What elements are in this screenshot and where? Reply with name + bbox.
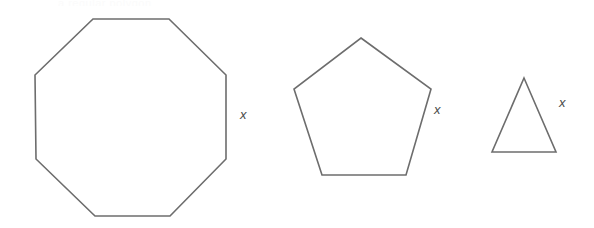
polygons-canvas xyxy=(0,0,594,228)
pentagon-shape xyxy=(294,38,431,175)
triangle-shape xyxy=(492,78,556,152)
triangle-side-label-x: x xyxy=(559,96,566,109)
geometry-figure: a regular polygon x x x xyxy=(0,0,594,228)
pentagon-side-label-x: x xyxy=(434,103,441,116)
octagon-shape xyxy=(35,19,226,216)
octagon-side-label-x: x xyxy=(240,108,247,121)
